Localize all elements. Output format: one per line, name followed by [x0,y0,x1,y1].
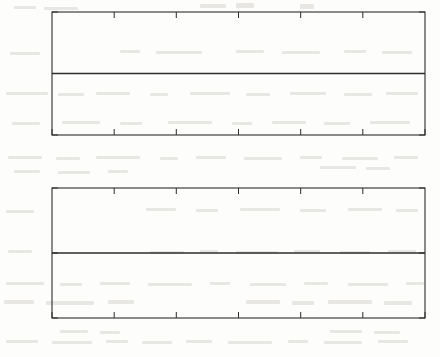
wave-elevation-plot [0,0,440,178]
breaking-elevation-plot [0,178,440,357]
figure-container [0,0,440,357]
